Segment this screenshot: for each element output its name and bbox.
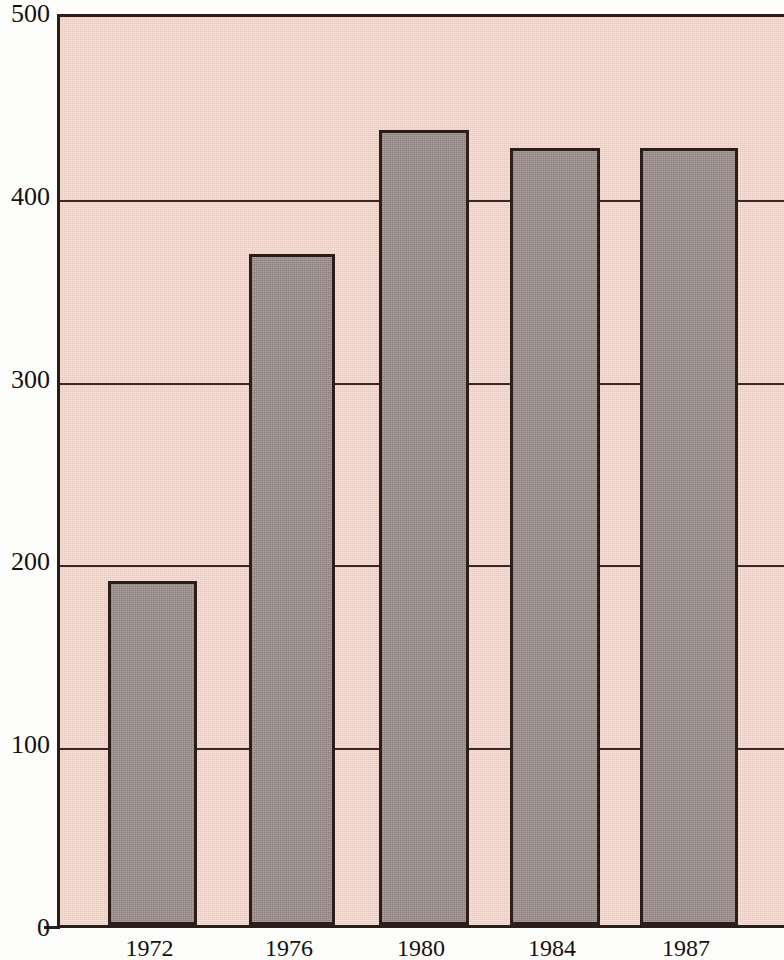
y-axis-tick-label-500: 500: [0, 1, 50, 27]
x-axis-tick-label-1980: 1980: [361, 936, 481, 960]
x-axis-tick-label-1984: 1984: [492, 936, 612, 960]
y-axis-tick-label-200: 200: [0, 549, 50, 575]
bar-1987: [640, 148, 738, 925]
x-axis-tick-label-1987: 1987: [626, 936, 746, 960]
y-axis-tick-label-0: 0: [0, 915, 50, 941]
y-axis-tick-label-400: 400: [0, 184, 50, 210]
x-axis-tick-label-1972: 1972: [90, 936, 210, 960]
bar-1976: [249, 254, 335, 925]
y-axis-tick-label-100: 100: [0, 732, 50, 758]
x-axis-tick-label-1976: 1976: [229, 936, 349, 960]
bar-1984: [510, 148, 600, 925]
bar-1972: [108, 581, 197, 925]
plot-area: [57, 14, 784, 928]
y-axis-tick-label-300: 300: [0, 367, 50, 393]
bar-1980: [379, 130, 469, 925]
